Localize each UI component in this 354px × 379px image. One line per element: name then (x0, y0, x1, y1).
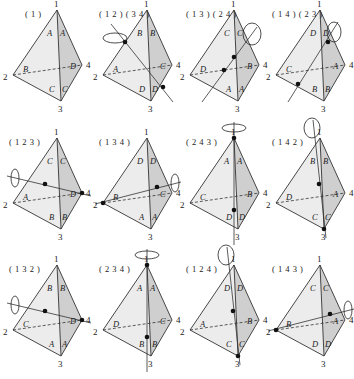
axis-point (43, 182, 48, 187)
face-label: D (236, 283, 244, 293)
permutation-label: ( 1 3 2 ) (9, 264, 40, 274)
permutation-label: ( 1 2 4 ) (186, 264, 217, 274)
tetrahedron-3: 1234( 1 3 ) ( 2 4 )CCDBAA (182, 2, 268, 126)
vertex-label-3: 3 (321, 104, 326, 114)
tetrahedron-6: 1234( 1 3 4 )DDBCAA (95, 130, 181, 254)
permutation-label: ( 1 4 3 ) (272, 264, 303, 274)
face-label: A (238, 84, 245, 94)
face-label: B (150, 28, 155, 38)
face-label: D (112, 319, 120, 329)
tetrahedron-11: 1234( 1 2 4 )DDABCC (182, 257, 268, 379)
vertex-label-2: 2 (93, 200, 98, 210)
axis-point (80, 191, 85, 196)
face-label: B (323, 156, 328, 166)
axis-point (145, 335, 150, 340)
face-label: C (312, 212, 318, 222)
vertex-label-3: 3 (58, 232, 63, 242)
tetrahedron-8: 1234( 1 4 2 )BBDACC (268, 130, 354, 254)
face-label: A (112, 64, 119, 74)
face-label: C (239, 339, 245, 349)
face-label: A (199, 319, 206, 329)
vertex-label-3: 3 (321, 359, 326, 369)
vertex-label-4: 4 (176, 315, 181, 325)
vertex-label-3: 3 (148, 232, 153, 242)
axis-point (296, 82, 301, 87)
face-label: B (286, 319, 291, 329)
face-label: C (60, 156, 66, 166)
vertex-label-4: 4 (176, 60, 181, 70)
face-label: A (149, 283, 156, 293)
vertex-label-3: 3 (148, 359, 153, 369)
vertex-label-4: 4 (86, 315, 91, 325)
face-label: B (247, 61, 252, 71)
vertex-label-2: 2 (266, 200, 271, 210)
axis-point (161, 85, 166, 90)
vertex-label-3: 3 (58, 104, 63, 114)
face-label: A (332, 316, 339, 326)
axis-point (317, 182, 322, 187)
axis-point (328, 312, 333, 317)
face-label: D (151, 84, 159, 94)
vertex-label-3: 3 (235, 104, 240, 114)
axis-point (322, 227, 327, 232)
face-label: A (22, 192, 29, 202)
face-label: B (310, 156, 315, 166)
face-label: B (312, 84, 317, 94)
rotation-arrow-icon (103, 33, 127, 43)
face-label: D (138, 84, 146, 94)
face-label: D (136, 156, 144, 166)
vertex-label-2: 2 (180, 72, 185, 82)
permutation-label: ( 2 3 4 ) (99, 264, 130, 274)
face-label: D (238, 212, 246, 222)
face-label: B (49, 212, 54, 222)
face-label: A (151, 212, 158, 222)
permutation-label: ( 1 3 4 ) (99, 137, 130, 147)
axis-point (155, 185, 160, 190)
face-label: D (149, 156, 157, 166)
vertex-label-1: 1 (54, 254, 59, 264)
face-label: A (59, 28, 66, 38)
face-label: A (138, 212, 145, 222)
axis-point (43, 309, 48, 314)
vertex-label-3: 3 (148, 104, 153, 114)
vertex-label-3: 3 (321, 232, 326, 242)
vertex-label-1: 1 (317, 254, 322, 264)
tetrahedron-4: 1234( 1 4 ) ( 2 3 )DDCABB (268, 2, 354, 126)
vertex-label-2: 2 (93, 327, 98, 337)
vertex-label-4: 4 (86, 188, 91, 198)
tetrahedron-1: 1234( 1 )AABDCC (5, 2, 91, 126)
face-label: C (323, 283, 329, 293)
face-label: A (236, 156, 243, 166)
face-label: A (61, 339, 68, 349)
vertex-label-3: 3 (58, 359, 63, 369)
tetrahedron-10: 1234( 2 3 4 )AADCBB (95, 257, 181, 379)
face-label: A (136, 283, 143, 293)
axis-point (222, 68, 227, 73)
vertex-label-1: 1 (144, 127, 149, 137)
vertex-label-1: 1 (144, 254, 149, 264)
face-label: C (310, 283, 316, 293)
face-label: C (47, 156, 53, 166)
vertex-label-1: 1 (231, 0, 236, 9)
permutation-label: ( 1 4 2 ) (272, 137, 303, 147)
face-label: C (200, 192, 206, 202)
face-label: D (223, 283, 231, 293)
axis-point (232, 55, 237, 60)
vertex-label-2: 2 (3, 200, 8, 210)
face-label: D (225, 212, 233, 222)
face-label: A (46, 28, 53, 38)
tetrahedron-12: 1234( 1 4 3 )CCBADD (268, 257, 354, 379)
vertex-label-4: 4 (349, 188, 354, 198)
face-label: B (137, 28, 142, 38)
tetrahedron-5: 1234( 1 2 3 )CCADBB (5, 130, 91, 254)
vertex-label-2: 2 (180, 200, 185, 210)
face-label: C (325, 212, 331, 222)
axis-point (231, 309, 236, 314)
face-label: B (325, 84, 330, 94)
tetrahedron-9: 1234( 1 3 2 )BBCDAA (5, 257, 91, 379)
tetrahedra-symmetry-figure: 1234( 1 )AABDCC1234( 1 2 ) ( 3 4 )BBACDD… (0, 0, 354, 379)
face-label: C (160, 189, 166, 199)
face-label: B (139, 339, 144, 349)
face-label: C (62, 84, 68, 94)
permutation-label: ( 2 4 3 ) (186, 137, 217, 147)
